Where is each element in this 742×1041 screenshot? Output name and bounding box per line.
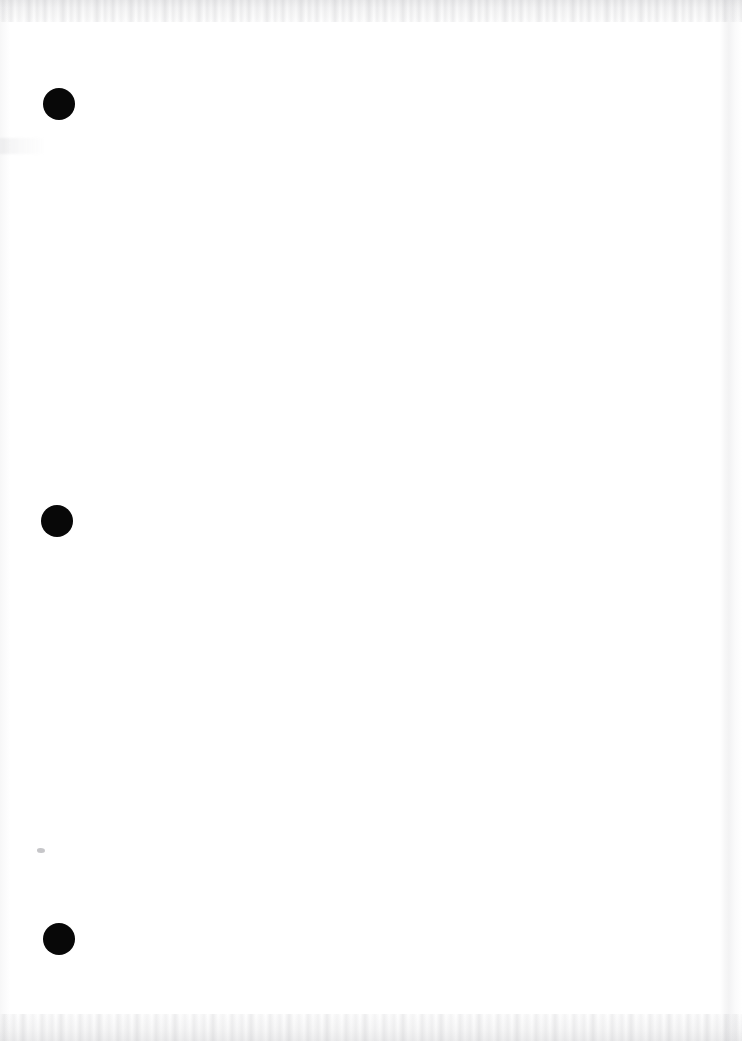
smudge-speck [37,848,45,853]
ink-dot-2 [41,505,73,537]
ink-dot-1 [43,88,75,120]
page-background [0,0,742,1041]
scanned-page [0,0,742,1041]
ink-dot-3 [43,923,75,955]
